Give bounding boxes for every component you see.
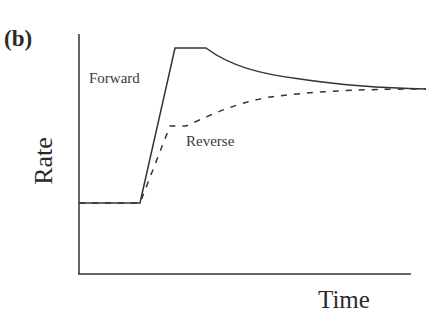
reverse-label: Reverse <box>186 133 235 149</box>
forward-label: Forward <box>89 70 140 86</box>
reverse-series-line <box>79 89 426 203</box>
rate-time-chart: Forward Reverse <box>0 0 434 320</box>
